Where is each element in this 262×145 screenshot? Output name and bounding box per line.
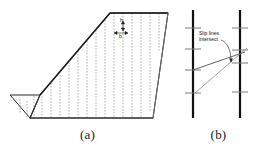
right-boundary: [153, 13, 168, 118]
slip-line-1: [193, 52, 245, 70]
slice-lines: [20, 13, 159, 118]
panel-b: Slip lines intersect (b): [175, 0, 262, 145]
caption-panel-a: (a): [0, 127, 175, 143]
slice-width-label: b: [119, 33, 122, 39]
caption-panel-b: (b): [175, 127, 262, 143]
panel-b-drawing: [175, 0, 262, 145]
slip-lines-annotation: Slip lines intersect: [199, 30, 219, 43]
panel-a-drawing: [0, 0, 175, 145]
slip-annotation-line-2: intersect: [199, 36, 219, 42]
figure-container: h b (a): [0, 0, 262, 145]
panel-a: h b (a): [0, 0, 175, 145]
slice-height-label: h: [120, 17, 123, 23]
slope-face: [40, 13, 110, 95]
